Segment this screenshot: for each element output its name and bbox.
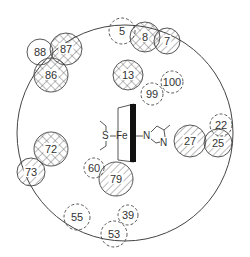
residue-7: 7 — [154, 28, 180, 54]
residue-55: 55 — [64, 204, 90, 230]
residue-label: 79 — [110, 173, 122, 185]
residue-53: 53 — [101, 221, 127, 247]
imidazole-n1-label: N — [143, 130, 150, 141]
residue-label: 86 — [45, 69, 57, 81]
residue-label: 88 — [34, 46, 46, 58]
residue-27: 27 — [174, 125, 206, 157]
residue-13: 13 — [113, 60, 143, 90]
residue-label: 55 — [71, 211, 83, 223]
residue-label: 87 — [60, 43, 72, 55]
sulfur-label: S — [102, 130, 109, 141]
imidazole-ring — [151, 126, 165, 137]
imidazole-ring-lower — [151, 139, 160, 143]
residue-39: 39 — [118, 205, 138, 225]
residue-25: 25 — [204, 129, 232, 157]
iron-label: Fe — [116, 130, 128, 141]
heme-group: S Fe N N — [100, 104, 170, 162]
methionine-chain-lower — [100, 141, 106, 150]
residue-79: 79 — [99, 162, 133, 196]
imidazole-methyl — [164, 125, 170, 130]
residue-100: 100 — [161, 71, 183, 93]
residue-label: 8 — [142, 31, 148, 43]
residue-86: 86 — [34, 58, 68, 92]
residue-label: 13 — [122, 69, 134, 81]
heme-pocket-diagram: 587888786131009922272572736079553953 S F… — [0, 0, 250, 257]
residue-label: 5 — [119, 25, 125, 37]
residue-label: 100 — [163, 76, 181, 88]
heme-edge-bar — [130, 104, 136, 162]
residue-99: 99 — [141, 83, 163, 105]
residue-label: 99 — [146, 88, 158, 100]
residue-label: 39 — [122, 209, 134, 221]
residue-label: 72 — [45, 143, 57, 155]
residue-label: 73 — [25, 166, 37, 178]
residue-label: 27 — [184, 135, 196, 147]
residue-label: 25 — [212, 137, 224, 149]
residue-label: 53 — [108, 228, 120, 240]
residue-label: 60 — [88, 162, 100, 174]
residue-73: 73 — [17, 158, 45, 186]
imidazole-n2-label: N — [160, 137, 167, 148]
residue-label: 7 — [164, 35, 170, 47]
